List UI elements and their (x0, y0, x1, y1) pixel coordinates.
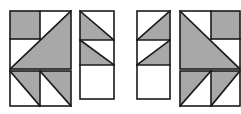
quilt-diagram-svg (0, 0, 241, 114)
quilt-diagram (0, 0, 241, 114)
shaded-square (211, 11, 240, 39)
right-quilt-block (180, 11, 240, 106)
shaded-square (10, 11, 40, 39)
left-quilt-block (10, 11, 71, 106)
center-right-strip (137, 11, 170, 99)
center-left-strip (80, 11, 114, 99)
